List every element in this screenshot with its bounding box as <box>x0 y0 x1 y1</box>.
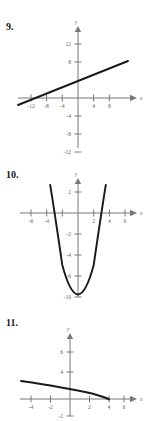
x-tick-label--4: -4 <box>60 103 65 109</box>
graph-11-svg: -4 -2 2 4 6 6 4 -2 x y <box>0 303 157 421</box>
y-tick-label--2: -2 <box>66 231 71 237</box>
graph-11: -4 -2 2 4 6 6 4 -2 x y <box>0 303 157 421</box>
x-axis-label: x <box>139 396 143 402</box>
x-tick-label--4: -4 <box>44 218 49 224</box>
x-axis-arrow <box>130 396 137 402</box>
x-tick-label-2: 2 <box>88 404 91 410</box>
y-axis-label: y <box>74 171 78 177</box>
y-axis-label: y <box>66 326 70 332</box>
y-tick-label--4: -4 <box>66 113 71 119</box>
y-axis-arrow <box>67 333 73 339</box>
y-tick-label-8: 8 <box>68 59 71 65</box>
graph-9-svg: -12 -8 -4 4 8 12 8 -4 -8 -12 x y <box>0 0 157 155</box>
x-axis-arrow <box>130 95 137 101</box>
x-tick-label--4: -4 <box>29 404 34 410</box>
x-tick-label--6: -6 <box>29 218 34 224</box>
x-tick-label-4: 4 <box>108 404 111 410</box>
graph-10: -6 -4 2 4 6 2 -2 -4 -6 -10 x y <box>0 155 157 303</box>
y-tick-label-6: 6 <box>60 349 63 355</box>
y-axis-arrow <box>75 26 81 32</box>
x-tick-label--12: -12 <box>27 103 35 109</box>
y-axis-arrow <box>75 178 81 184</box>
x-axis-label: x <box>139 210 143 216</box>
y-tick-label-4: 4 <box>60 369 63 375</box>
x-tick-label-6: 6 <box>124 218 127 224</box>
y-tick-label-12: 12 <box>65 41 71 47</box>
radical-curve-series <box>21 381 109 399</box>
x-tick-label-2: 2 <box>92 218 95 224</box>
y-tick-label--8: -8 <box>66 131 71 137</box>
y-tick-label-2: 2 <box>68 189 71 195</box>
problem-9-block: 9. -12 -8 -4 4 8 12 <box>0 0 157 155</box>
y-axis-label: y <box>74 19 78 25</box>
graph-9: -12 -8 -4 4 8 12 8 -4 -8 -12 x y <box>0 0 157 155</box>
problem-11-block: 11. -4 -2 2 4 6 6 4 -2 <box>0 303 157 421</box>
problem-10-block: 10. -6 -4 2 4 6 <box>0 155 157 303</box>
x-axis-label: x <box>139 95 143 101</box>
x-tick-label--2: -2 <box>48 404 53 410</box>
x-tick-label-6: 6 <box>123 404 126 410</box>
y-tick-label--10: -10 <box>64 294 72 300</box>
x-tick-label-4: 4 <box>108 218 111 224</box>
x-tick-label-8: 8 <box>108 103 111 109</box>
graph-10-svg: -6 -4 2 4 6 2 -2 -4 -6 -10 x y <box>0 155 157 303</box>
x-tick-label--8: -8 <box>44 103 49 109</box>
y-tick-label--4: -4 <box>66 252 71 258</box>
x-axis-arrow <box>130 210 137 216</box>
x-tick-label-4: 4 <box>92 103 95 109</box>
y-tick-label--2: -2 <box>58 413 63 419</box>
